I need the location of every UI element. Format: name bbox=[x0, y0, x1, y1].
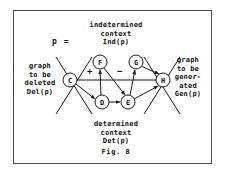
graph-to-be-generated-label: graph to be gener- ated Gen(p) bbox=[166, 56, 210, 99]
figure-page: C F G D E H p = indeterm bbox=[0, 0, 225, 177]
graph-to-be-deleted-label: graph to be deleted Del(p) bbox=[19, 62, 61, 96]
node-C: C bbox=[63, 73, 77, 87]
node-D-label: D bbox=[100, 99, 104, 107]
figure-caption: Fig. 8 bbox=[73, 148, 159, 157]
production-symbol: p = bbox=[52, 38, 69, 47]
node-D: D bbox=[95, 95, 109, 109]
node-E: E bbox=[121, 95, 135, 109]
edge-D-F bbox=[100, 70, 101, 95]
determined-context-label: determined context Det(p) bbox=[73, 120, 159, 146]
node-G-label: G bbox=[134, 59, 138, 67]
graph-nodes: C F G D E H bbox=[63, 55, 170, 109]
plus-sign-label: + bbox=[87, 67, 92, 76]
node-F-label: F bbox=[98, 59, 102, 67]
edge-E-G bbox=[130, 70, 135, 95]
node-C-label: C bbox=[68, 77, 72, 85]
edge-C-D bbox=[76, 84, 95, 99]
node-E-label: E bbox=[126, 99, 130, 107]
node-F: F bbox=[93, 55, 107, 69]
node-H-label: H bbox=[161, 77, 165, 85]
indetermined-context-label: indetermined context Ind(p) bbox=[73, 21, 159, 47]
node-G: G bbox=[129, 55, 143, 69]
minus-sign-label: − bbox=[117, 67, 122, 76]
